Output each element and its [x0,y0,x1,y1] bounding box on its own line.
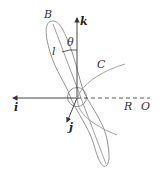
blade-diagram: B k θ l C i j R O [0,0,164,178]
label-j: j [67,121,73,134]
blade-outline [46,21,109,166]
theta-arc [62,50,77,52]
label-c: C [97,58,106,71]
label-o: O [141,100,150,113]
label-i: i [14,101,18,114]
label-theta: θ [67,36,74,49]
label-k: k [80,15,88,28]
label-r: R [123,100,132,113]
blade-centerline [53,24,106,164]
label-b: B [43,8,52,21]
label-l: l [52,45,56,58]
